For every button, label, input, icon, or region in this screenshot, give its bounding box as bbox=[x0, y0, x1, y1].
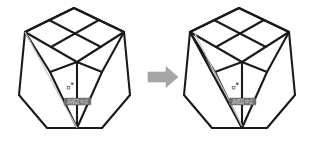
top-face-grid-after bbox=[214, 20, 266, 47]
cursor-after bbox=[231, 82, 240, 91]
tooltip-before: 选择边中点 bbox=[64, 98, 91, 105]
solid-outline-before bbox=[19, 8, 130, 128]
tooltip-after: 选择边中点 bbox=[229, 98, 256, 105]
top-face-grid-before bbox=[49, 20, 101, 47]
solid-outline-after bbox=[184, 8, 295, 128]
cursor-before bbox=[66, 82, 75, 91]
figure-before bbox=[2, 0, 152, 145]
comparison-stage: 选择边中点 bbox=[0, 0, 319, 145]
figure-after bbox=[167, 0, 317, 145]
